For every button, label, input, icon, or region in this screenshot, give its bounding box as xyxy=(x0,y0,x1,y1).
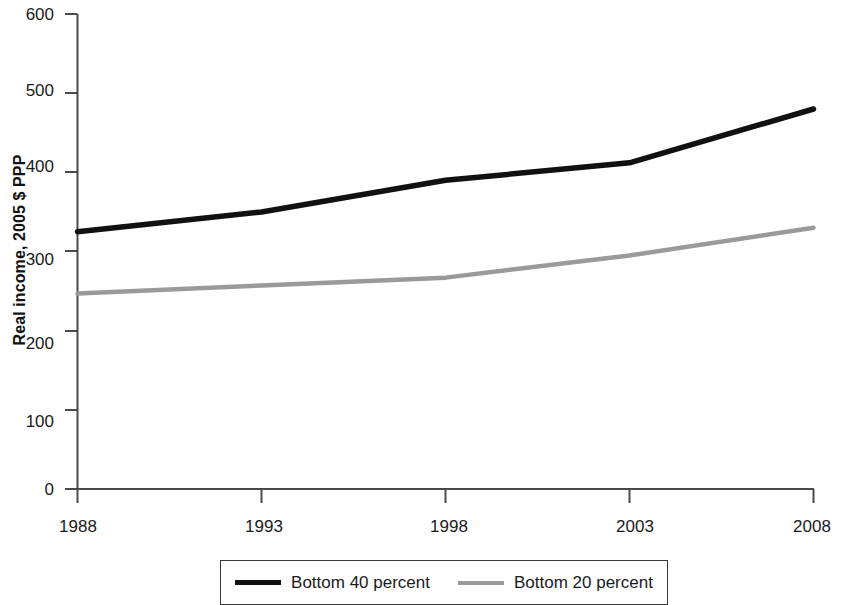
legend-label-bottom-20-percent: Bottom 20 percent xyxy=(514,573,653,593)
x-axis-ticks xyxy=(78,489,814,503)
series-line-bottom-40-percent xyxy=(78,109,814,232)
legend-item-bottom-20-percent: Bottom 20 percent xyxy=(458,573,653,593)
legend: Bottom 40 percent Bottom 20 percent xyxy=(220,560,668,605)
y-axis-ticks xyxy=(65,14,78,489)
legend-item-bottom-40-percent: Bottom 40 percent xyxy=(235,573,430,593)
legend-label-bottom-40-percent: Bottom 40 percent xyxy=(291,573,430,593)
legend-swatch-icon-bottom-40-percent xyxy=(235,580,281,585)
plot-area xyxy=(0,0,841,530)
series-line-bottom-20-percent xyxy=(78,228,814,294)
legend-swatch-icon-bottom-20-percent xyxy=(458,581,504,585)
